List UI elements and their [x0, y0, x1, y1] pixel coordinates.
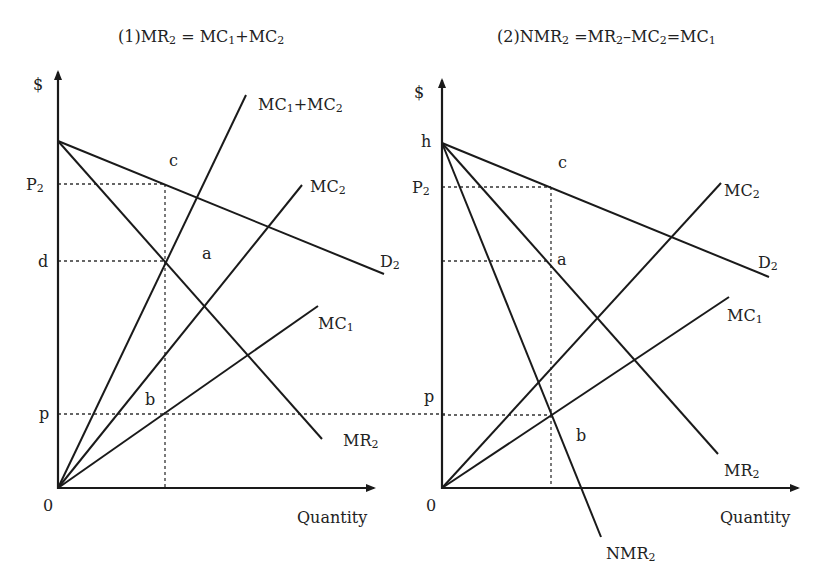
mc1-plus-mc2-label: MC1+MC2 — [258, 95, 343, 115]
tick-h: h — [421, 132, 431, 151]
diagram-canvas: (1)MR2 = MC1+MC2 $ 0 Quantity P2 d p c a… — [0, 0, 824, 582]
point-b: b — [576, 426, 586, 445]
nmr2-label: NMR2 — [606, 544, 655, 564]
left-panel: (1)MR2 = MC1+MC2 $ 0 Quantity P2 d p c a… — [26, 27, 445, 527]
left-title: (1)MR2 = MC1+MC2 — [118, 27, 284, 47]
point-c: c — [169, 151, 178, 170]
mc2-label: MC2 — [310, 177, 346, 197]
tick-p2: P2 — [412, 178, 430, 198]
origin-label: 0 — [426, 496, 436, 515]
origin-label: 0 — [43, 496, 53, 515]
mr2-curve — [442, 143, 718, 454]
point-c: c — [558, 153, 567, 172]
mc1-label: MC1 — [727, 306, 763, 326]
mc1-label: MC1 — [318, 314, 354, 334]
point-a: a — [557, 250, 567, 269]
point-a: a — [202, 244, 212, 263]
mc2-label: MC2 — [724, 181, 760, 201]
d2-curve — [58, 141, 384, 274]
mc1-plus-mc2-curve — [58, 95, 246, 488]
point-b: b — [145, 390, 155, 409]
tick-d: d — [38, 252, 48, 271]
y-axis-label: $ — [33, 75, 43, 94]
x-axis-label: Quantity — [720, 508, 790, 527]
d2-curve — [442, 143, 769, 277]
mc1-curve — [442, 297, 729, 488]
right-title: (2)NMR2 =MR2–MC2=MC1 — [497, 27, 716, 47]
right-panel: (2)NMR2 =MR2–MC2=MC1 $ 0 Quantity h P2 p… — [412, 27, 798, 564]
d2-label: D2 — [380, 252, 400, 272]
mr2-curve — [58, 141, 322, 439]
mr2-label: MR2 — [343, 431, 378, 451]
tick-p: p — [424, 387, 434, 406]
x-axis-label: Quantity — [297, 508, 367, 527]
mc1-curve — [58, 306, 318, 488]
y-axis-label: $ — [414, 83, 424, 102]
mc2-curve — [58, 185, 302, 488]
tick-p2: P2 — [26, 175, 44, 195]
mr2-label: MR2 — [724, 461, 759, 481]
tick-p: p — [39, 404, 49, 423]
d2-label: D2 — [758, 253, 778, 273]
